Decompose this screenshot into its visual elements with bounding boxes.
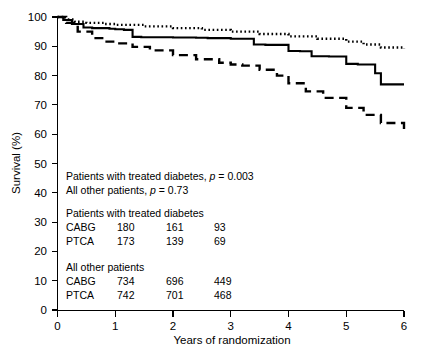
survival-chart: 0102030405060708090100 0123456 Survival … xyxy=(0,0,421,358)
risk-table-count-1-0-0: 734 xyxy=(117,275,135,287)
pvalue-value: = 0.73 xyxy=(156,184,189,196)
pvalue-line-1: All other patients, p = 0.73 xyxy=(66,184,188,196)
series-line-1 xyxy=(58,17,405,84)
x-tick-label: 5 xyxy=(343,320,349,332)
risk-table-count-1-0-1: 696 xyxy=(166,275,184,287)
risk-table-arm-0-1: PTCA xyxy=(66,235,94,247)
risk-table-count-0-1-0: 173 xyxy=(117,235,135,247)
risk-table-count-1-1-2: 468 xyxy=(214,289,232,301)
pvalue-label: Patients with treated diabetes, xyxy=(66,170,210,182)
risk-table-arm-1-1: PTCA xyxy=(66,289,94,301)
x-tick-label: 4 xyxy=(285,320,292,332)
y-tick-label: 90 xyxy=(34,40,47,52)
risk-table-count-0-1-2: 69 xyxy=(214,235,226,247)
risk-table-count-0-0-0: 180 xyxy=(117,221,135,233)
x-tick-label: 2 xyxy=(170,320,176,332)
y-tick-label: 70 xyxy=(34,99,47,111)
y-tick-label: 80 xyxy=(34,70,47,82)
x-axis: 0123456 xyxy=(54,311,407,333)
series-line-0 xyxy=(58,17,405,49)
risk-table-count-1-0-2: 449 xyxy=(214,275,232,287)
risk-table-count-0-1-1: 139 xyxy=(166,235,184,247)
x-tick-label: 6 xyxy=(401,320,407,332)
pvalue-line-0: Patients with treated diabetes, p = 0.00… xyxy=(66,170,254,182)
risk-table-arm-1-0: CABG xyxy=(66,275,96,287)
series-line-2 xyxy=(58,17,405,131)
risk-table-heading-1: All other patients xyxy=(66,261,144,273)
y-axis: 0102030405060708090100 xyxy=(28,11,58,316)
risk-table-arm-0-0: CABG xyxy=(66,221,96,233)
y-tick-label: 10 xyxy=(34,275,47,287)
y-tick-label: 40 xyxy=(34,187,47,199)
y-tick-label: 60 xyxy=(34,128,47,140)
annotation-layer: Patients with treated diabetes, p = 0.00… xyxy=(66,170,254,301)
y-tick-label: 20 xyxy=(34,245,47,257)
x-tick-label: 0 xyxy=(54,320,60,332)
pvalue-value: = 0.003 xyxy=(215,170,253,182)
risk-table-count-0-0-1: 161 xyxy=(166,221,184,233)
chart-canvas: 0102030405060708090100 0123456 Survival … xyxy=(0,0,421,358)
y-axis-title: Survival (%) xyxy=(10,132,22,194)
y-tick-label: 100 xyxy=(28,11,47,23)
risk-table-count-0-0-2: 93 xyxy=(214,221,226,233)
x-tick-label: 3 xyxy=(228,320,234,332)
risk-table-count-1-1-1: 701 xyxy=(166,289,184,301)
x-axis-title: Years of randomization xyxy=(173,334,290,346)
y-tick-label: 0 xyxy=(41,304,47,316)
pvalue-label: All other patients, xyxy=(66,184,150,196)
risk-table-heading-0: Patients with treated diabetes xyxy=(66,207,204,219)
x-tick-label: 1 xyxy=(112,320,118,332)
risk-table-count-1-1-0: 742 xyxy=(117,289,135,301)
y-tick-label: 30 xyxy=(34,216,47,228)
y-tick-label: 50 xyxy=(34,158,47,170)
series-layer xyxy=(58,17,405,131)
